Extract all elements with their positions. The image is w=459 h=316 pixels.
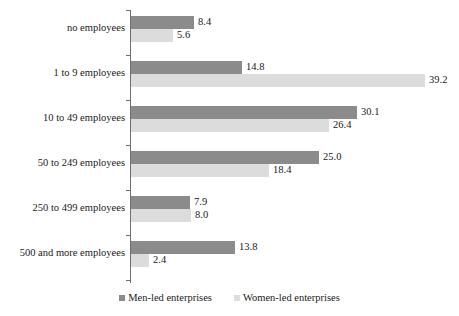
legend-swatch-icon (119, 295, 125, 301)
bar-men-led[interactable] (131, 61, 242, 74)
bar-men-led[interactable] (131, 241, 235, 254)
bar-men-led[interactable] (131, 196, 190, 209)
bar-value-label: 8.0 (195, 208, 208, 222)
category-label: 10 to 49 employees (0, 111, 125, 124)
bar-group: 50 to 249 employees25.018.4 (0, 145, 459, 190)
bar-group: 10 to 49 employees30.126.4 (0, 100, 459, 145)
category-label: 500 and more employees (0, 246, 125, 259)
legend-item[interactable]: Men-led enterprises (119, 292, 212, 304)
bar-value-label: 18.4 (273, 163, 291, 177)
bar-value-label: 13.8 (239, 240, 257, 254)
category-label: 250 to 499 employees (0, 201, 125, 214)
bar-chart: no employees8.45.61 to 9 employees14.839… (0, 0, 459, 316)
bar-value-label: 30.1 (361, 105, 379, 119)
bar-group: 250 to 499 employees7.98.0 (0, 190, 459, 235)
bar-women-led[interactable] (131, 119, 329, 132)
legend-label: Women-led enterprises (243, 292, 340, 304)
category-label: no employees (0, 21, 125, 34)
category-label: 1 to 9 employees (0, 66, 125, 79)
bar-value-label: 7.9 (194, 195, 207, 209)
bar-group: no employees8.45.6 (0, 10, 459, 55)
bar-value-label: 2.4 (153, 253, 166, 267)
axis-tick (126, 280, 131, 281)
bar-value-label: 8.4 (198, 15, 211, 29)
bar-men-led[interactable] (131, 106, 357, 119)
legend-swatch-icon (234, 295, 240, 301)
bar-value-label: 14.8 (246, 60, 264, 74)
bar-women-led[interactable] (131, 164, 269, 177)
bar-group: 1 to 9 employees14.839.2 (0, 55, 459, 100)
bar-women-led[interactable] (131, 29, 173, 42)
plot-area: no employees8.45.61 to 9 employees14.839… (0, 0, 459, 290)
category-label: 50 to 249 employees (0, 156, 125, 169)
bar-value-label: 5.6 (177, 28, 190, 42)
legend-label: Men-led enterprises (128, 292, 212, 304)
bar-value-label: 26.4 (333, 118, 351, 132)
bar-value-label: 39.2 (429, 73, 447, 87)
bar-group: 500 and more employees13.82.4 (0, 235, 459, 280)
bar-women-led[interactable] (131, 254, 149, 267)
bar-value-label: 25.0 (323, 150, 341, 164)
chart-legend: Men-led enterprisesWomen-led enterprises (0, 292, 459, 304)
bar-women-led[interactable] (131, 209, 191, 222)
legend-item[interactable]: Women-led enterprises (234, 292, 340, 304)
bar-women-led[interactable] (131, 74, 425, 87)
